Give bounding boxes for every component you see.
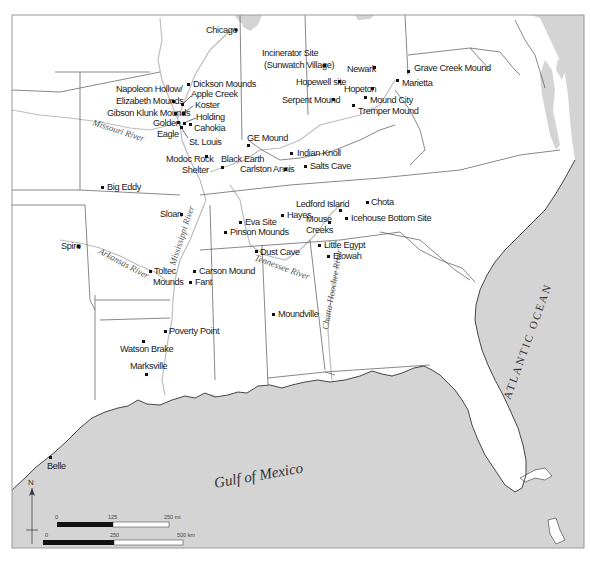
site-dust-cave: Dust Cave <box>255 247 300 257</box>
site-marker-icon <box>49 456 52 459</box>
site-icehouse-bottom: Icehouse Bottom Site <box>345 213 432 223</box>
site-hopewell: Hopewell site <box>296 77 346 87</box>
site-label: Cahokia <box>194 123 226 133</box>
north-label: N <box>28 478 34 487</box>
scale-segment-light <box>114 540 183 545</box>
site-marker-icon <box>345 217 348 220</box>
site-etowah: Etowah <box>327 251 362 261</box>
site-marker-icon <box>371 87 374 90</box>
site-label: Creeks <box>306 225 334 235</box>
site-marker-icon <box>239 221 242 224</box>
site-label: Black Earth <box>221 154 264 164</box>
site-marker-icon <box>189 281 192 284</box>
site-marker-icon <box>164 330 167 333</box>
site-little-egypt: Little Egypt <box>318 240 366 250</box>
site-label: Toltec <box>154 266 177 276</box>
site-label: Eva Site <box>245 217 277 227</box>
site-marker-icon <box>318 244 321 247</box>
site-marker-icon <box>332 98 335 101</box>
site-marker-icon <box>373 66 376 69</box>
site-poverty-point: Poverty Point <box>164 326 220 336</box>
site-label: Mounds <box>153 277 184 287</box>
site-marker-icon <box>272 313 275 316</box>
site-mouse-creeks: Mouse Creeks <box>306 214 334 235</box>
site-hopeton: Hopeton <box>344 84 377 94</box>
site-label: Marietta <box>402 78 434 88</box>
site-label: Holding <box>196 112 225 122</box>
site-chota: Chota <box>366 197 395 207</box>
scale-tick-label: 250 mi <box>164 514 181 520</box>
site-cahokia: Cahokia <box>189 123 226 133</box>
site-label: Napoleon Hollow/ <box>116 84 183 94</box>
site-marker-icon <box>183 122 186 125</box>
site-label: Serpent Mound <box>282 95 341 105</box>
site-pinson-mounds: Pinson Mounds <box>224 227 290 237</box>
site-marker-icon <box>327 255 330 258</box>
site-label: Chota <box>371 197 395 207</box>
site-marker-icon <box>101 186 104 189</box>
scale-tick-label: 250 <box>110 532 119 538</box>
site-marker-icon <box>290 152 293 155</box>
site-label: Pinson Mounds <box>230 227 290 237</box>
site-salts-cave: Salts Cave <box>304 161 351 171</box>
site-label: GE Mound <box>247 133 288 143</box>
site-label: Koster <box>195 100 220 110</box>
site-label: Moundville <box>278 309 319 319</box>
site-label: Eagle <box>157 129 179 139</box>
site-label: Big Eddy <box>107 182 142 192</box>
site-marker-icon <box>189 123 192 126</box>
site-label: Salts Cave <box>310 161 351 171</box>
site-moundville: Moundville <box>272 309 319 319</box>
site-label: Newark <box>347 64 377 74</box>
site-label: Gibson Klunk Mounds <box>107 108 191 118</box>
site-serpent-mound: Serpent Mound <box>282 95 341 105</box>
site-marietta: Marietta <box>396 78 434 88</box>
scale-tick-label: 125 <box>108 514 117 520</box>
site-marker-icon <box>224 231 227 234</box>
site-marker-icon <box>149 270 152 273</box>
site-marker-icon <box>193 270 196 273</box>
site-marker-icon <box>338 80 341 83</box>
site-marker-icon <box>205 155 208 158</box>
site-marker-icon <box>187 83 190 86</box>
site-indian-knoll: Indian Knoll <box>290 148 341 158</box>
site-marker-icon <box>174 112 177 115</box>
site-label: Golden <box>153 118 181 128</box>
site-label: Little Egypt <box>324 240 366 250</box>
site-label: Marksville <box>130 361 168 371</box>
site-marker-icon <box>180 213 183 216</box>
site-newark: Newark <box>347 64 377 74</box>
site-dickson-mounds: Dickson Mounds <box>187 79 257 89</box>
site-marker-icon <box>247 144 250 147</box>
site-marker-icon <box>304 165 307 168</box>
site-label: Ledford Island <box>296 199 350 209</box>
site-eva: Eva Site <box>239 217 277 227</box>
site-label: Etowah <box>333 251 362 261</box>
site-marker-icon <box>366 201 369 204</box>
city-marker-icon <box>180 126 183 129</box>
site-label: Fant <box>195 277 213 287</box>
site-marker-icon <box>328 221 331 224</box>
city-label: Chicago <box>206 25 237 35</box>
site-marker-icon <box>172 100 175 103</box>
map-canvas: Gulf of Mexico ATLANTIC OCEAN Missouri R… <box>0 0 590 562</box>
site-gibson-klunk: Gibson Klunk Mounds <box>107 108 191 118</box>
scale-tick-label: 0 <box>45 532 48 538</box>
site-spiro: Spiro <box>61 241 81 251</box>
site-mound-city: Mound City <box>364 95 414 105</box>
site-label: Mound City <box>370 95 414 105</box>
scale-segment-dark <box>57 522 113 527</box>
site-marker-icon <box>407 70 410 73</box>
city-chicago: Chicago <box>206 25 238 35</box>
site-tremper-mound: Tremper Mound <box>352 104 419 116</box>
site-label: Watson Brake <box>120 344 173 354</box>
site-marker-icon <box>255 250 258 253</box>
site-label: Poverty Point <box>169 326 220 336</box>
site-marker-icon <box>284 168 287 171</box>
site-marker-icon <box>77 245 80 248</box>
scale-tick-label: 0 <box>55 514 58 520</box>
site-marker-icon <box>323 64 326 67</box>
scale-segment-dark <box>43 540 114 545</box>
scale-segment-light <box>113 522 169 527</box>
site-label: Belle <box>47 461 66 471</box>
